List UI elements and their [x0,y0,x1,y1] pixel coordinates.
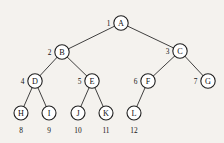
tree-edge-d-i [38,88,46,107]
node-label-i: I [48,109,51,118]
tree-edge-a-c [128,26,174,48]
tree-edge-a-b [68,26,114,49]
node-label-b: B [59,48,65,57]
node-label-h: H [18,109,24,118]
tree-node-l[interactable]: L12 [127,106,141,135]
node-index-f: 6 [134,77,138,86]
tree-edge-c-f [153,56,175,76]
tree-edge-c-g [185,56,203,75]
node-label-l: L [131,109,136,118]
node-label-f: F [146,77,151,86]
node-index-d: 4 [21,77,25,86]
tree-nodes: A1B2C3D4E5F6G7H8I9J10K11L12 [14,16,215,135]
tree-edge-b-e [67,57,87,76]
tree-edge-d-h [24,88,32,107]
tree-node-j[interactable]: J10 [71,106,85,135]
tree-node-d[interactable]: D4 [21,74,43,88]
node-index-c: 3 [166,47,170,56]
tree-node-c[interactable]: C3 [166,44,188,58]
node-index-g: 7 [194,77,198,86]
node-label-a: A [118,19,124,28]
node-index-l: 12 [130,126,138,135]
node-index-b: 2 [48,48,52,57]
node-index-h: 8 [19,126,23,135]
node-label-c: C [177,47,183,56]
node-label-g: G [205,77,211,86]
node-index-k: 11 [102,126,109,135]
tree-node-h[interactable]: H8 [14,106,28,135]
node-index-e: 5 [78,77,82,86]
tree-node-f[interactable]: F6 [134,74,156,88]
tree-node-g[interactable]: G7 [194,74,216,88]
tree-edge-f-l [137,88,145,107]
node-label-k: K [103,109,109,118]
node-label-d: D [32,77,38,86]
tree-edge-e-j [81,88,89,107]
tree-node-i[interactable]: I9 [42,106,56,135]
node-index-j: 10 [74,126,82,135]
tree-node-k[interactable]: K11 [99,106,113,135]
node-label-e: E [89,77,94,86]
tree-edge-b-d [40,57,57,75]
binary-tree-figure: A1B2C3D4E5F6G7H8I9J10K11L12 [0,0,224,143]
node-index-i: 9 [47,126,51,135]
tree-edge-e-k [95,88,103,107]
binary-tree-canvas: A1B2C3D4E5F6G7H8I9J10K11L12 [0,0,224,143]
tree-edges [24,26,203,107]
tree-node-e[interactable]: E5 [78,74,100,88]
tree-node-b[interactable]: B2 [48,45,70,59]
node-index-a: 1 [107,19,111,28]
